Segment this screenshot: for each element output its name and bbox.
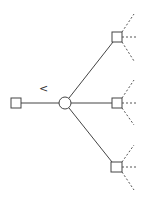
tree-diagram	[0, 0, 147, 204]
edge-hub-top	[69, 42, 113, 98]
dashed-branch	[122, 14, 134, 32]
edge-hub-bottom	[69, 108, 112, 162]
dashed-branch	[122, 80, 134, 98]
dashed-branch	[122, 42, 134, 61]
child-top-node	[112, 32, 122, 42]
child-bottom-node	[111, 162, 122, 172]
hub-node	[59, 97, 71, 109]
dashed-branch	[122, 145, 134, 162]
dashed-branch	[122, 108, 134, 125]
root-node	[11, 98, 21, 108]
dashed-branch	[122, 172, 134, 190]
arrow-label: <	[39, 83, 48, 94]
child-middle-node	[112, 98, 122, 108]
